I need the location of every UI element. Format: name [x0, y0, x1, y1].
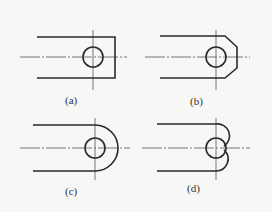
panel-d: (d) [142, 118, 250, 195]
panel-label: (d) [187, 182, 200, 195]
panel-label: (b) [190, 95, 203, 108]
double-arc-end-outline [157, 124, 230, 171]
panel-c: (c) [20, 118, 130, 198]
diagram-canvas: (a) (b) (c) (d) [0, 0, 272, 212]
panel-b: (b) [145, 30, 250, 108]
panel-label: (a) [65, 94, 78, 107]
panel-a: (a) [20, 30, 127, 107]
panel-label: (c) [65, 185, 78, 198]
